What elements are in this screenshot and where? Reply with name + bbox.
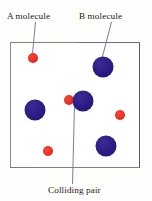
molecule-b-4: [96, 136, 117, 157]
molecule-b-1: [93, 57, 114, 78]
molecule-a-4: [43, 146, 53, 156]
label-colliding-pair: Colliding pair: [48, 186, 101, 195]
molecule-collision-diagram: A molecule B molecule Colliding pair: [0, 0, 152, 201]
molecule-b-2: [25, 100, 46, 121]
container-border-top-right-segment: [78, 42, 140, 43]
molecule-b-3: [73, 91, 94, 112]
molecule-a-1: [28, 53, 38, 63]
label-b-molecule: B molecule: [79, 12, 122, 21]
label-a-molecule: A molecule: [7, 12, 50, 21]
molecule-a-3: [115, 110, 125, 120]
container-border-bottom-left-segment: [10, 167, 40, 168]
